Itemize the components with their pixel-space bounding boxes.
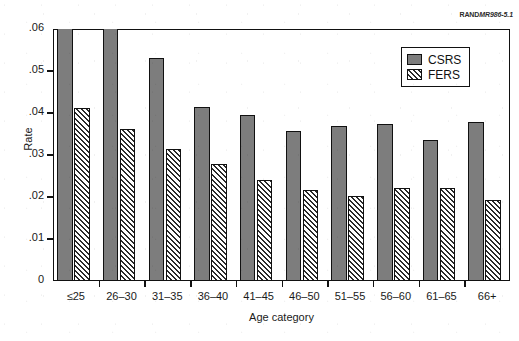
legend-label-fers: FERS <box>428 69 460 81</box>
chart-legend: CSRS FERS <box>401 47 470 87</box>
y-axis-tick-label: 0 <box>38 273 44 285</box>
x-axis-tick-mark <box>144 281 146 287</box>
x-axis-label: 46–50 <box>282 290 328 302</box>
bar-group <box>194 29 227 281</box>
bar-fers <box>440 188 456 281</box>
bar-csrs <box>194 107 210 281</box>
x-axis-tick-mark <box>464 281 466 287</box>
bar-csrs <box>240 115 256 281</box>
bar-csrs <box>286 131 302 281</box>
x-axis-label: 56–60 <box>373 290 419 302</box>
bar-fers <box>348 196 364 281</box>
bar-csrs <box>331 126 347 281</box>
legend-item-csrs: CSRS <box>407 52 461 67</box>
legend-label-csrs: CSRS <box>428 54 461 66</box>
x-axis-label: 31–35 <box>144 290 190 302</box>
bar-group <box>240 29 273 281</box>
bar-fers <box>257 180 273 281</box>
x-axis-tick-mark <box>327 281 329 287</box>
bar-fers <box>166 149 182 281</box>
x-axis-tick-mark <box>282 281 284 287</box>
bar-csrs <box>423 140 439 281</box>
bar-group <box>57 29 90 281</box>
x-axis-label: 66+ <box>464 290 510 302</box>
bar-fers <box>485 200 501 281</box>
bar-csrs <box>103 29 119 281</box>
y-axis-tick-label: .01 <box>29 231 44 243</box>
chart-figure: RANDMR986-5.1 Rate 0.01.02.03.04.05.06 ≤… <box>0 0 519 341</box>
x-axis-tick-mark <box>419 281 421 287</box>
y-axis-tick-label: .02 <box>29 189 44 201</box>
y-axis-tick-label: .04 <box>29 105 44 117</box>
bar-group <box>331 29 364 281</box>
bar-group <box>149 29 182 281</box>
y-axis-tick-label: .03 <box>29 147 44 159</box>
bar-fers <box>394 188 410 281</box>
y-axis-tick-label: .05 <box>29 63 44 75</box>
x-axis-label: 61–65 <box>419 290 465 302</box>
x-axis-label: 36–40 <box>190 290 236 302</box>
rand-wordmark: RAND <box>459 11 479 18</box>
x-axis-tick-mark <box>99 281 101 287</box>
bar-group <box>468 29 501 281</box>
x-axis-label: 41–45 <box>236 290 282 302</box>
bar-csrs <box>468 122 484 281</box>
x-axis-label: ≤25 <box>53 290 99 302</box>
bar-fers <box>74 108 90 281</box>
bar-fers <box>303 190 319 281</box>
bar-group <box>286 29 319 281</box>
x-axis-label: 51–55 <box>327 290 373 302</box>
bar-csrs <box>149 58 165 281</box>
bar-csrs <box>377 124 393 282</box>
x-axis-tick-mark <box>373 281 375 287</box>
bar-csrs <box>57 29 73 281</box>
y-axis-tick-label: .06 <box>29 21 44 33</box>
bar-fers <box>211 164 227 281</box>
report-id: MR986-5.1 <box>479 11 513 18</box>
legend-item-fers: FERS <box>407 67 461 82</box>
x-axis-tick-mark <box>190 281 192 287</box>
x-axis-tick-mark <box>236 281 238 287</box>
source-credit: RANDMR986-5.1 <box>459 11 513 18</box>
x-axis-title: Age category <box>53 311 510 323</box>
legend-swatch-fers-icon <box>407 69 422 80</box>
bar-group <box>103 29 136 281</box>
legend-swatch-csrs-icon <box>407 54 422 65</box>
x-axis-label: 26–30 <box>99 290 145 302</box>
bar-fers <box>120 129 136 281</box>
